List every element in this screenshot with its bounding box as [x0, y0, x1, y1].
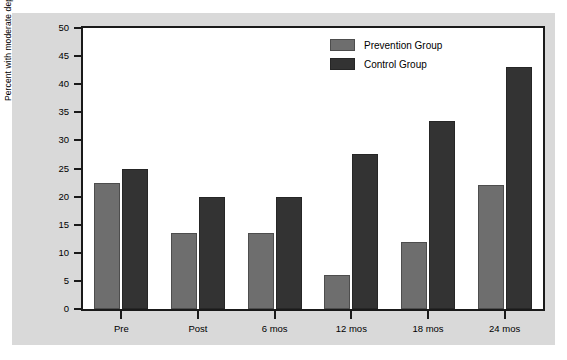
- y-axis-tick-label: 35: [58, 106, 69, 117]
- x-axis-tick-mark: [350, 311, 352, 319]
- bar-prevention: [94, 183, 120, 309]
- legend-label-prevention: Prevention Group: [364, 40, 442, 51]
- y-axis-tick-label: 30: [58, 134, 69, 145]
- chart-legend: Prevention Group Control Group: [330, 37, 442, 75]
- y-axis-tick-mark: [74, 55, 81, 57]
- y-axis-title: Percent with moderate depressive symptom…: [3, 0, 13, 101]
- y-axis-tick-label: 10: [58, 247, 69, 258]
- bar-prevention: [248, 233, 274, 309]
- y-axis-tick-label: 45: [58, 50, 69, 61]
- plot-area: [83, 28, 543, 309]
- y-axis-tick-mark: [74, 196, 81, 198]
- y-axis-tick-label: 15: [58, 219, 69, 230]
- x-axis-tick-label: Pre: [81, 323, 161, 334]
- y-axis-tick-mark: [74, 308, 81, 310]
- y-axis-tick-mark: [74, 139, 81, 141]
- y-axis-tick-label: 25: [58, 163, 69, 174]
- x-axis-tick-mark: [274, 311, 276, 319]
- y-axis-tick-label: 20: [58, 191, 69, 202]
- plot-frame: [81, 26, 545, 311]
- bar-prevention: [478, 185, 504, 309]
- y-axis-tick-mark: [74, 280, 81, 282]
- y-axis-tick-mark: [74, 168, 81, 170]
- chart-figure: Percent with moderate depressive symptom…: [0, 0, 567, 360]
- y-axis-tick-label: 40: [58, 78, 69, 89]
- legend-swatch-prevention-icon: [330, 39, 355, 51]
- legend-item-prevention: Prevention Group: [330, 37, 442, 53]
- bar-prevention: [401, 242, 427, 309]
- y-axis-tick-mark: [74, 252, 81, 254]
- x-axis-tick-label: 6 mos: [235, 323, 315, 334]
- y-axis-tick-mark: [74, 27, 81, 29]
- x-axis-tick-mark: [120, 311, 122, 319]
- y-axis-tick-mark: [74, 83, 81, 85]
- x-axis-tick-mark: [197, 311, 199, 319]
- y-axis-tick-label: 50: [58, 22, 69, 33]
- legend-item-control: Control Group: [330, 56, 442, 72]
- bar-control: [352, 154, 378, 309]
- bar-prevention: [324, 275, 350, 309]
- x-axis-tick-label: Post: [158, 323, 238, 334]
- bar-control: [506, 67, 532, 309]
- legend-label-control: Control Group: [364, 59, 427, 70]
- bar-prevention: [171, 233, 197, 309]
- y-axis-tick-label: 5: [64, 275, 69, 286]
- y-axis-tick-mark: [74, 224, 81, 226]
- chart-panel: Percent with moderate depressive symptom…: [12, 13, 555, 345]
- x-axis-tick-mark: [504, 311, 506, 319]
- x-axis-tick-label: 18 mos: [388, 323, 468, 334]
- bar-control: [199, 197, 225, 309]
- y-axis-tick-mark: [74, 111, 81, 113]
- bar-control: [276, 197, 302, 309]
- x-axis-tick-mark: [427, 311, 429, 319]
- legend-swatch-control-icon: [330, 58, 355, 70]
- bar-control: [122, 169, 148, 310]
- x-axis-tick-label: 12 mos: [311, 323, 391, 334]
- x-axis-tick-label: 24 mos: [465, 323, 545, 334]
- y-axis-tick-label: 0: [64, 303, 69, 314]
- bar-control: [429, 121, 455, 309]
